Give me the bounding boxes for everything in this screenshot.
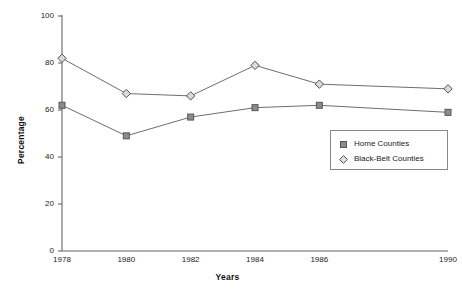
y-tick-label: 60	[28, 105, 54, 114]
data-point-marker	[251, 61, 259, 69]
legend-label: Black-Belt Counties	[354, 154, 424, 164]
data-point-marker	[444, 85, 452, 93]
y-axis-title-text: Percentage	[16, 116, 26, 164]
x-axis-title: Years	[0, 272, 455, 282]
y-tick-label: 20	[28, 199, 54, 208]
y-tick-label: 100	[28, 11, 54, 20]
legend-label: Home Counties	[354, 139, 409, 149]
data-point-marker	[186, 92, 194, 100]
data-point-marker	[58, 54, 66, 62]
data-point-marker	[445, 109, 451, 115]
chart-legend: Home Counties Black-Belt Counties	[330, 130, 448, 170]
x-tick-label: 1986	[299, 255, 339, 264]
series-group	[58, 54, 452, 139]
legend-item-home-counties: Home Counties	[338, 138, 409, 150]
data-point-marker	[252, 105, 258, 111]
x-tick-label: 1978	[42, 255, 82, 264]
data-point-marker	[316, 102, 322, 108]
data-point-marker	[315, 80, 323, 88]
legend-item-black-belt-counties: Black-Belt Counties	[338, 153, 424, 165]
data-point-marker	[188, 114, 194, 120]
y-tick-label: 40	[28, 152, 54, 161]
x-tick-label: 1990	[428, 255, 462, 264]
x-tick-label: 1984	[235, 255, 275, 264]
x-tick-label: 1982	[171, 255, 211, 264]
data-point-marker	[59, 102, 65, 108]
y-axis-title: Percentage	[14, 100, 28, 180]
square-marker-icon	[338, 139, 349, 150]
x-tick-label: 1980	[106, 255, 146, 264]
y-tick-label: 80	[28, 58, 54, 67]
data-point-marker	[123, 133, 129, 139]
data-point-marker	[122, 89, 130, 97]
diamond-marker-icon	[338, 154, 349, 165]
y-tick-label: 0	[28, 246, 54, 255]
